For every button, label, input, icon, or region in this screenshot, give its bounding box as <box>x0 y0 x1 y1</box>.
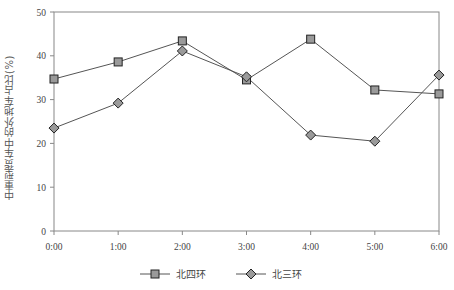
y-tick-label: 50 <box>37 8 47 18</box>
y-tick-label: 40 <box>37 51 47 61</box>
legend-label: 北四环 <box>176 266 206 281</box>
y-tick-label: 30 <box>37 95 47 105</box>
y-tick-label: 20 <box>37 139 47 149</box>
data-point-square <box>435 90 443 98</box>
plot-area-border <box>54 12 439 231</box>
diamond-marker-icon <box>236 269 266 279</box>
legend-item-series-0: 北四环 <box>140 266 206 281</box>
x-tick-label: 3:00 <box>238 242 255 252</box>
data-point-diamond <box>113 98 123 108</box>
y-tick-label: 10 <box>37 183 47 193</box>
square-marker-icon <box>140 269 170 279</box>
x-tick-label: 4:00 <box>302 242 319 252</box>
data-point-diamond <box>49 123 59 133</box>
x-tick-label: 6:00 <box>431 242 448 252</box>
series-line-1 <box>54 51 439 141</box>
y-tick-label: 0 <box>41 227 46 237</box>
legend: 北四环 北三环 <box>140 266 302 281</box>
data-point-square <box>178 37 186 45</box>
legend-label: 北三环 <box>272 266 302 281</box>
data-point-square <box>114 58 122 66</box>
data-point-square <box>371 86 379 94</box>
x-tick-label: 2:00 <box>174 242 191 252</box>
series-line-0 <box>54 39 439 94</box>
x-tick-label: 5:00 <box>366 242 383 252</box>
data-point-square <box>307 35 315 43</box>
x-tick-label: 1:00 <box>110 242 127 252</box>
line-chart: 010203040500:001:002:003:004:005:006:00 <box>0 0 454 260</box>
x-tick-label: 0:00 <box>46 242 63 252</box>
data-point-square <box>50 75 58 83</box>
legend-item-series-1: 北三环 <box>236 266 302 281</box>
data-point-diamond <box>177 46 187 56</box>
y-axis-label: 中重型货车中的外地车占比(%) <box>2 40 20 215</box>
